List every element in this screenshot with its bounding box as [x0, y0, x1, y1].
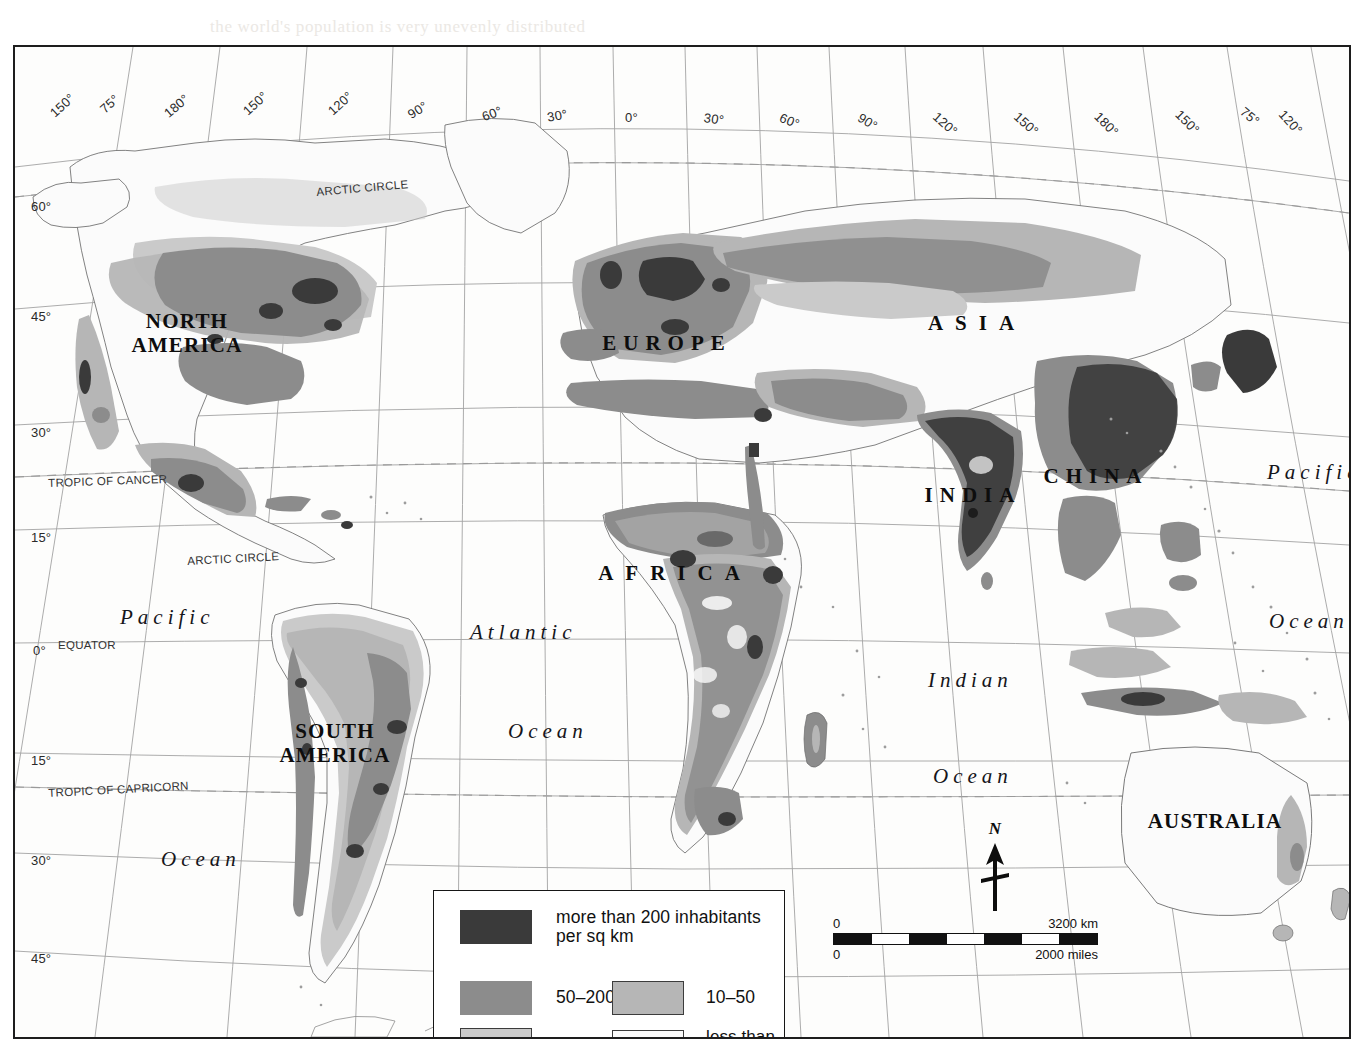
legend-swatch-under-1	[612, 1030, 684, 1039]
scale-km-label: 3200 km	[1048, 916, 1098, 931]
scale-bar-graphic	[833, 933, 1098, 945]
ocean-label-ocean-3: Ocean	[508, 719, 588, 744]
continent-label-line: CHINA	[1043, 465, 1148, 489]
continent-label-line: INDIA	[925, 484, 1022, 508]
latitude-label-1: 45°	[31, 309, 51, 324]
showthrough-text-0: the world's population is very unevenly …	[210, 17, 586, 37]
ocean-label-pacific-0: Pacific	[120, 605, 214, 630]
continent-label-south-america: SOUTHAMERICA	[279, 720, 390, 767]
continent-label-line: EUROPE	[602, 332, 732, 356]
compass-north-label: N	[977, 819, 1013, 839]
legend-label-over-200-line1: more than 200 inhabitants	[556, 908, 761, 927]
legend-swatch-1-10	[460, 1028, 532, 1039]
latitude-label-5: 15°	[31, 753, 51, 768]
latitude-label-0: 60°	[31, 199, 51, 214]
continent-label-asia: ASIA	[928, 312, 1026, 336]
scale-bar: 0 3200 km 0 2000 miles	[833, 916, 1098, 962]
legend-label-under-1: less than 1	[706, 1028, 784, 1039]
continent-label-line: AUSTRALIA	[1148, 810, 1283, 834]
scale-zero-top: 0	[833, 916, 840, 931]
latitude-label-6: 30°	[31, 853, 51, 868]
continent-label-india: INDIA	[925, 484, 1022, 508]
page-root: the world's population is very unevenly …	[0, 0, 1362, 1054]
legend-panel[interactable]: more than 200 inhabitants per sq km 50–2…	[433, 890, 785, 1039]
legend-label-50-200: 50–200	[556, 988, 615, 1007]
legend-swatch-50-200	[460, 981, 532, 1015]
latitude-label-4: 0°	[33, 643, 46, 658]
world-map-graphic	[15, 47, 1349, 1037]
ocean-label-ocean-1: Ocean	[161, 847, 241, 872]
north-arrow-icon	[977, 839, 1013, 915]
compass-rose: N	[977, 819, 1013, 919]
latitude-label-7: 45°	[31, 951, 51, 966]
continent-label-line: ASIA	[928, 312, 1026, 336]
latitude-label-3: 15°	[31, 530, 51, 545]
legend-label-1-10: 1–10	[556, 1035, 595, 1039]
continent-label-china: CHINA	[1043, 465, 1148, 489]
ocean-label-pacific-6: Pacific	[1267, 460, 1351, 485]
continent-label-line: AFRICA	[598, 562, 752, 586]
ocean-label-ocean-7: Ocean	[1269, 609, 1349, 634]
continent-label-line: SOUTH	[279, 720, 390, 744]
ocean-label-ocean-5: Ocean	[933, 764, 1013, 789]
continent-label-europe: EUROPE	[602, 332, 732, 356]
continent-label-line: AMERICA	[131, 334, 242, 358]
legend-label-10-50: 10–50	[706, 988, 755, 1007]
continent-label-australia: AUSTRALIA	[1148, 810, 1283, 834]
scale-zero-bottom: 0	[833, 947, 840, 962]
latitude-label-2: 30°	[31, 425, 51, 440]
ocean-label-atlantic-2: Atlantic	[470, 620, 577, 645]
continent-label-line: NORTH	[131, 310, 242, 334]
scale-miles-label: 2000 miles	[1035, 947, 1098, 962]
continent-label-north-america: NORTHAMERICA	[131, 310, 242, 357]
continent-label-line: AMERICA	[279, 744, 390, 768]
legend-swatch-10-50	[612, 981, 684, 1015]
named-line-label-equator-2: EQUATOR	[58, 639, 116, 651]
longitude-label-8: 0°	[625, 110, 638, 125]
map-frame: NORTHAMERICASOUTHAMERICAEUROPEAFRICAASIA…	[13, 45, 1351, 1039]
longitude-label-9: 30°	[703, 110, 725, 128]
ocean-label-indian-4: Indian	[928, 668, 1013, 693]
legend-label-over-200-line2: per sq km	[556, 927, 761, 946]
legend-swatch-over-200	[460, 910, 532, 944]
continent-label-africa: AFRICA	[598, 562, 752, 586]
